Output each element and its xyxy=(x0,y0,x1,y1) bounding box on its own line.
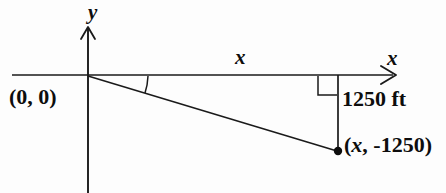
angle-arc-icon xyxy=(145,76,148,93)
vertical-distance-label: 1250 ft xyxy=(342,88,406,110)
x-axis-label: x xyxy=(387,48,398,69)
hypotenuse-line xyxy=(88,76,337,151)
point-coordinate-rest: , -1250) xyxy=(362,132,432,157)
origin-label: (0, 0) xyxy=(9,86,57,108)
coordinate-diagram: y x x (0, 0) 1250 ft (x, -1250) xyxy=(0,0,446,193)
point-coordinate-variable: x xyxy=(351,132,362,157)
point-coordinate-label: (x, -1250) xyxy=(344,134,432,156)
right-angle-marker-icon xyxy=(318,76,337,95)
y-axis-label: y xyxy=(88,2,97,23)
horizontal-side-label: x xyxy=(235,47,246,68)
point-marker xyxy=(334,147,342,155)
